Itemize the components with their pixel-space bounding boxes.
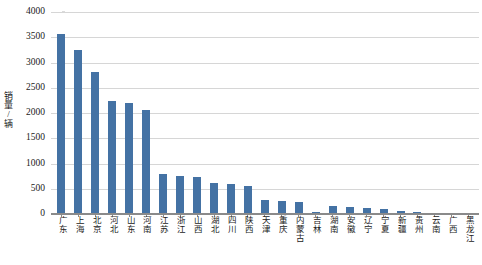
bar-slot [341, 12, 358, 214]
x-label-slot: 吉林 [307, 216, 324, 265]
x-label-slot: 山西 [189, 216, 206, 265]
x-label-slot: 云南 [426, 216, 443, 265]
bar-slot [392, 12, 409, 214]
x-axis-category-label: 江苏 [159, 216, 168, 234]
x-label-slot: 四川 [223, 216, 240, 265]
x-axis-category-label: 北京 [91, 216, 100, 234]
x-label-slot: 天津 [256, 216, 273, 265]
bar[interactable] [142, 110, 150, 214]
bar-slot [155, 12, 172, 214]
bar-slot [443, 12, 460, 214]
bar-slot [138, 12, 155, 214]
x-axis-category-label: 山西 [193, 216, 202, 234]
y-axis-title-text: 销量/辆 [4, 91, 13, 128]
x-axis-category-label: 四川 [227, 216, 236, 234]
x-axis-category-label: 广西 [447, 216, 456, 234]
x-label-slot: 贵州 [409, 216, 426, 265]
bar[interactable] [57, 34, 65, 214]
bar-slot [172, 12, 189, 214]
x-label-slot: 上海 [70, 216, 87, 265]
bar[interactable] [91, 72, 99, 214]
bar[interactable] [159, 174, 167, 214]
bar[interactable] [176, 176, 184, 214]
bar-slot [53, 12, 70, 214]
x-axis-category-label: 陕西 [244, 216, 253, 234]
x-label-slot: 宁夏 [375, 216, 392, 265]
bar[interactable] [74, 50, 82, 214]
bar-slot [223, 12, 240, 214]
x-axis-category-label: 宁夏 [379, 216, 388, 234]
bar[interactable] [125, 103, 133, 214]
bar-slot [239, 12, 256, 214]
x-axis-category-label: 辽宁 [362, 216, 371, 234]
y-axis-tick-label: 4000 [26, 7, 45, 17]
y-axis-tick-label: 2000 [26, 108, 45, 118]
bar-slot [375, 12, 392, 214]
bar[interactable] [193, 177, 201, 214]
x-label-slot: 新疆 [392, 216, 409, 265]
x-axis-category-label: 浙江 [176, 216, 185, 234]
y-axis-tick-label: 500 [31, 184, 45, 194]
bar[interactable] [244, 186, 252, 214]
y-axis-tick-labels: 40003500300025002000150010005000 [14, 0, 48, 218]
bar-slot [324, 12, 341, 214]
bar-slot [273, 12, 290, 214]
bar-slot [206, 12, 223, 214]
bar-chart: 销量/辆 40003500300025002000150010005000 广东… [0, 0, 482, 265]
bar[interactable] [227, 184, 235, 214]
x-axis-category-label: 云南 [430, 216, 439, 234]
bar-slot [460, 12, 477, 214]
plot-area [51, 12, 479, 214]
x-axis-category-label: 内蒙古 [295, 216, 304, 243]
x-axis-category-label: 河南 [142, 216, 151, 234]
x-axis-category-label: 安徽 [345, 216, 354, 234]
bar-slot [358, 12, 375, 214]
bar[interactable] [108, 101, 116, 214]
x-axis-category-label: 黑龙江 [464, 216, 473, 243]
x-label-slot: 北京 [87, 216, 104, 265]
x-label-slot: 重庆 [273, 216, 290, 265]
y-axis-tick-label: 3500 [26, 33, 45, 43]
x-axis-category-label: 吉林 [312, 216, 321, 234]
y-axis-tick-label: 3000 [26, 58, 45, 68]
x-label-slot: 陕西 [239, 216, 256, 265]
x-label-slot: 广西 [443, 216, 460, 265]
x-label-slot: 江苏 [155, 216, 172, 265]
y-axis-tick-label: 1500 [26, 134, 45, 144]
x-label-slot: 内蒙古 [290, 216, 307, 265]
bar-slot [409, 12, 426, 214]
bar-series [51, 12, 479, 214]
x-axis-category-labels: 广东上海北京河北山东河南江苏浙江山西湖北四川陕西天津重庆内蒙古吉林湖南安徽辽宁宁… [51, 216, 479, 265]
x-label-slot: 辽宁 [358, 216, 375, 265]
x-axis-category-label: 天津 [261, 216, 270, 234]
bar-slot [290, 12, 307, 214]
x-label-slot: 河南 [138, 216, 155, 265]
bar-slot [121, 12, 138, 214]
y-axis-tick-label: 0 [40, 209, 45, 219]
x-axis-category-label: 湖南 [328, 216, 337, 234]
x-label-slot: 山东 [121, 216, 138, 265]
bar-slot [189, 12, 206, 214]
y-axis-tick-label: 2500 [26, 83, 45, 93]
x-axis-category-label: 新疆 [396, 216, 405, 234]
x-label-slot: 安徽 [341, 216, 358, 265]
x-label-slot: 湖北 [206, 216, 223, 265]
x-axis-category-label: 山东 [125, 216, 134, 234]
bar-slot [426, 12, 443, 214]
x-label-slot: 浙江 [172, 216, 189, 265]
x-axis-category-label: 广东 [57, 216, 66, 234]
bar-slot [104, 12, 121, 214]
x-axis-category-label: 贵州 [413, 216, 422, 234]
x-axis-category-label: 重庆 [278, 216, 287, 234]
bar-slot [307, 12, 324, 214]
bar[interactable] [210, 183, 218, 214]
x-axis-category-label: 河北 [108, 216, 117, 234]
x-label-slot: 黑龙江 [460, 216, 477, 265]
x-axis-category-label: 湖北 [210, 216, 219, 234]
bar-slot [87, 12, 104, 214]
bar[interactable] [261, 200, 269, 214]
bar-slot [70, 12, 87, 214]
x-label-slot: 湖南 [324, 216, 341, 265]
bar-slot [256, 12, 273, 214]
x-label-slot: 河北 [104, 216, 121, 265]
